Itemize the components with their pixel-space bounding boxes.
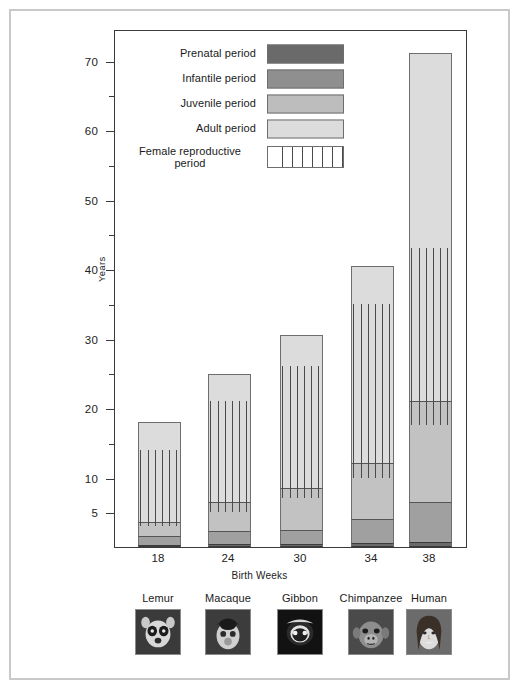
bar-chimpanzee: [351, 266, 394, 547]
legend-item-infantile: Infantile period: [129, 68, 344, 89]
species-item-human: Human: [394, 592, 464, 655]
species-strip: LemurMacaqueGibbonChimpanzeeHuman: [114, 592, 467, 674]
legend-label: Prenatal period: [180, 48, 256, 60]
legend-item-female-reproductive: Female reproductive period: [129, 143, 344, 171]
human-photo: [406, 609, 452, 655]
x-axis-label: 34: [364, 552, 377, 564]
y-axis-label: 40: [85, 264, 98, 276]
x-axis-title: Birth Weeks: [0, 570, 519, 581]
bar-segment-infantile: [351, 519, 394, 543]
bar-segment-juvenile: [208, 502, 251, 531]
legend-item-juvenile: Juvenile period: [129, 93, 344, 114]
bar-macaque: [208, 373, 251, 547]
species-name: Lemur: [123, 592, 193, 604]
y-axis-label: 5: [91, 507, 98, 519]
y-axis-label: 20: [85, 403, 98, 415]
x-axis-label: 30: [293, 552, 306, 564]
lemur-photo: [135, 609, 181, 655]
bar-segment-juvenile: [409, 401, 452, 502]
bar-human: [409, 54, 452, 547]
bar-segment-infantile: [138, 536, 181, 544]
macaque-photo: [205, 609, 251, 655]
bar-segment-infantile: [208, 531, 251, 544]
bar-lemur: [138, 422, 181, 547]
legend-item-prenatal: Prenatal period: [129, 43, 344, 64]
legend-swatch-prenatal: [267, 44, 344, 63]
species-name: Human: [394, 592, 464, 604]
bar-segment-adult: [409, 53, 452, 401]
bar-segment-adult: [208, 374, 251, 503]
bar-segment-prenatal: [280, 544, 323, 547]
species-item-macaque: Macaque: [193, 592, 263, 655]
bar-gibbon: [280, 335, 323, 547]
plot-area: Prenatal period Infantile period Juvenil…: [114, 30, 467, 548]
bar-segment-adult: [138, 422, 181, 522]
bar-segment-prenatal: [138, 545, 181, 547]
legend-label: Infantile period: [182, 73, 256, 85]
bar-segment-juvenile: [138, 522, 181, 536]
bar-segment-adult: [351, 266, 394, 463]
legend-label: Adult period: [196, 123, 256, 135]
legend: Prenatal period Infantile period Juvenil…: [129, 43, 344, 175]
species-name: Macaque: [193, 592, 263, 604]
figure-page: Years 706050403020105 Prenatal period In…: [0, 0, 519, 689]
bar-segment-prenatal: [351, 543, 394, 547]
species-item-gibbon: Gibbon: [265, 592, 335, 655]
legend-label: Juvenile period: [181, 98, 257, 110]
chimpanzee-photo: [348, 609, 394, 655]
y-axis: Years 706050403020105: [60, 24, 114, 554]
legend-swatch-juvenile: [267, 94, 344, 113]
legend-label: Female reproductive period: [124, 146, 256, 169]
legend-swatch-adult: [267, 119, 344, 138]
legend-swatch-female-reproductive: [267, 146, 344, 168]
species-item-lemur: Lemur: [123, 592, 193, 655]
legend-swatch-infantile: [267, 69, 344, 88]
bar-segment-infantile: [280, 530, 323, 544]
gibbon-photo: [277, 609, 323, 655]
legend-item-adult: Adult period: [129, 118, 344, 139]
x-axis-label: 18: [151, 552, 164, 564]
y-axis-label: 30: [85, 334, 98, 346]
bar-segment-juvenile: [351, 463, 394, 519]
y-axis-label: 10: [85, 473, 98, 485]
species-name: Gibbon: [265, 592, 335, 604]
y-axis-label: 70: [85, 56, 98, 68]
bar-segment-prenatal: [208, 544, 251, 547]
y-axis-label: 50: [85, 195, 98, 207]
bar-segment-adult: [280, 335, 323, 488]
bar-segment-juvenile: [280, 488, 323, 530]
bar-segment-prenatal: [409, 542, 452, 547]
x-axis-label: 24: [221, 552, 234, 564]
y-axis-label: 60: [85, 125, 98, 137]
x-axis-label: 38: [422, 552, 435, 564]
bar-segment-infantile: [409, 502, 452, 542]
